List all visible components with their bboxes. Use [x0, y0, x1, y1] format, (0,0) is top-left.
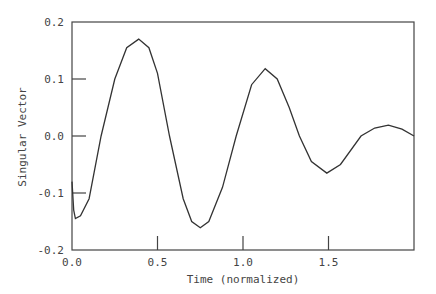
y-axis-label: Singular Vector: [16, 87, 29, 187]
y-tick-label: 0.1: [44, 73, 64, 86]
x-tick-label: 0.0: [62, 256, 82, 269]
x-axis-label: Time (normalized): [187, 273, 300, 286]
x-tick-label: 1.5: [319, 256, 339, 269]
y-tick-label: -0.2: [38, 244, 65, 257]
data-line: [72, 39, 414, 228]
x-axis: 0.00.51.01.5: [62, 236, 338, 269]
x-tick-label: 0.5: [148, 256, 168, 269]
chart: -0.2-0.10.00.10.2 0.00.51.01.5 Time (nor…: [0, 0, 436, 294]
y-tick-label: 0.2: [44, 16, 64, 29]
y-axis: -0.2-0.10.00.10.2: [38, 16, 87, 257]
x-tick-label: 1.0: [233, 256, 253, 269]
y-tick-label: -0.1: [38, 187, 65, 200]
y-tick-label: 0.0: [44, 130, 64, 143]
